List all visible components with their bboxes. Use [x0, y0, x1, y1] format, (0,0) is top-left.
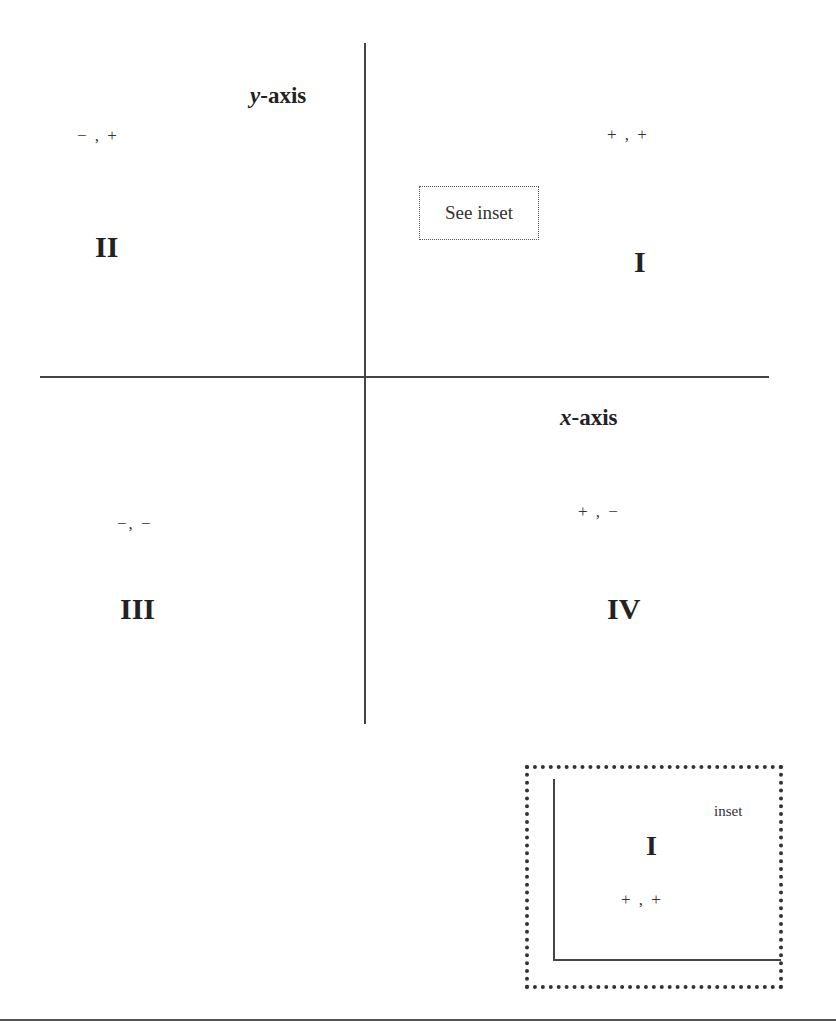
x-axis-line: [40, 376, 769, 378]
inset-y-axis-line: [553, 779, 555, 961]
inset-frame: [525, 765, 783, 989]
quadrant-iii-signs: −, −: [117, 514, 153, 534]
y-axis-line: [364, 43, 366, 724]
quadrant-i-signs: + , +: [607, 125, 649, 145]
y-axis-label: y-axis: [250, 83, 306, 109]
inset-x-axis-line: [553, 959, 781, 961]
quadrant-ii-signs: − , +: [77, 126, 119, 146]
see-inset-callout: See inset: [419, 186, 539, 240]
inset-quadrant-numeral: I: [646, 830, 657, 862]
see-inset-label: See inset: [445, 202, 513, 224]
inset-label: inset: [714, 803, 742, 820]
quadrant-iv-numeral: IV: [607, 592, 640, 626]
quadrant-i-numeral: I: [634, 245, 646, 279]
quadrant-iv-signs: + , −: [578, 502, 620, 522]
inset-quadrant-signs: + , +: [621, 890, 663, 910]
x-axis-label: x-axis: [560, 405, 618, 431]
quadrant-iii-numeral: III: [120, 592, 155, 626]
bottom-divider: [0, 1019, 836, 1021]
quadrant-ii-numeral: II: [95, 230, 118, 264]
